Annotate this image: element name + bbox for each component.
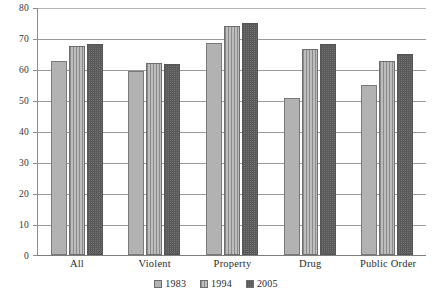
plot-area [37,8,426,256]
y-tick-label: 40 [19,127,29,137]
chart-legend: 1983 1994 2005 [0,278,432,289]
bar-2005-drug [320,44,336,255]
x-tick-label-violent: Violent [116,258,194,269]
x-tick-label-drug: Drug [271,258,349,269]
y-tick-70 [33,39,37,40]
plot-wrapper: 80 70 60 50 40 30 20 10 0 [0,0,432,262]
bar-1983-drug [284,98,300,255]
legend-item-1983: 1983 [154,278,186,289]
y-tick-label: 80 [19,3,29,13]
legend-swatch-icon-1994 [200,280,208,288]
y-tick-50 [33,101,37,102]
y-tick-label: 10 [19,220,29,230]
bar-2005-property [242,23,258,256]
bar-group-public-order [348,8,426,255]
y-tick-label: 60 [19,65,29,75]
bar-1994-property [224,26,240,255]
y-tick-60 [33,70,37,71]
bar-1983-all [51,61,67,255]
legend-item-1994: 1994 [200,278,232,289]
bar-1983-violent [128,71,144,255]
bar-chart: 80 70 60 50 40 30 20 10 0 [0,0,432,307]
bar-1994-public-order [379,61,395,255]
y-tick-10 [33,225,37,226]
bar-groups [38,8,426,255]
bar-group-all [38,8,116,255]
bar-1994-all [69,46,85,255]
legend-label-1994: 1994 [211,278,232,289]
legend-swatch-icon-2005 [246,280,254,288]
y-tick-80 [33,8,37,9]
y-tick-label: 30 [19,158,29,168]
y-tick-label: 70 [19,34,29,44]
x-tick-label-property: Property [194,258,272,269]
x-tick-label-all: All [38,258,116,269]
bar-group-violent [116,8,194,255]
bar-2005-all [87,44,103,255]
x-axis-category-labels: All Violent Property Drug Public Order [38,258,427,269]
bar-1983-property [206,43,222,255]
y-axis-tick-labels: 80 70 60 50 40 30 20 10 0 [0,0,33,262]
y-tick-30 [33,163,37,164]
bar-group-drug [271,8,349,255]
bar-1983-public-order [361,85,377,256]
legend-swatch-icon-1983 [154,280,162,288]
bar-2005-public-order [397,54,413,256]
y-tick-20 [33,194,37,195]
legend-item-2005: 2005 [246,278,278,289]
legend-label-2005: 2005 [257,278,278,289]
bar-group-property [193,8,271,255]
y-tick-0 [33,255,37,256]
legend-label-1983: 1983 [165,278,186,289]
bar-1994-drug [302,49,318,255]
y-tick-label: 50 [19,96,29,106]
x-tick-label-public-order: Public Order [349,258,427,269]
bar-1994-violent [146,63,162,255]
bar-2005-violent [164,64,180,255]
x-axis-line [37,255,426,256]
y-tick-label: 20 [19,189,29,199]
y-tick-40 [33,132,37,133]
y-tick-label: 0 [24,251,29,261]
